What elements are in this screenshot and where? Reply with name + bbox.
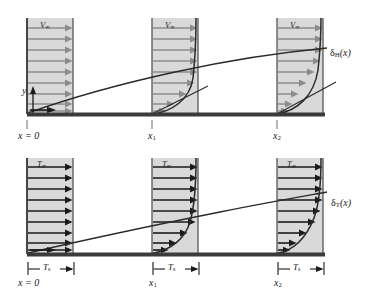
thermal-fill-3 bbox=[277, 158, 323, 254]
station-label-bottom-2: x2 bbox=[274, 278, 282, 289]
ts-dimension-bars bbox=[28, 262, 324, 275]
boundary-layer-figure bbox=[0, 0, 373, 298]
tinf-label-3: T∞ bbox=[287, 160, 296, 169]
flat-plate-bottom bbox=[27, 253, 325, 257]
station-ticks-top bbox=[27, 120, 277, 129]
station-label-top-1: x1 bbox=[148, 131, 156, 142]
velocity-fill-2 bbox=[152, 18, 198, 114]
thermal-station-1 bbox=[27, 158, 73, 254]
thermal-station-2 bbox=[152, 158, 198, 254]
tinf-label-1: T∞ bbox=[37, 160, 46, 169]
station-label-top-2: x2 bbox=[273, 131, 281, 142]
station-label-bottom-0: x = 0 bbox=[18, 278, 39, 288]
thermal-station-3 bbox=[277, 158, 323, 254]
vinf-label-2: V∞ bbox=[165, 21, 175, 30]
ts-label-3: Ts bbox=[293, 263, 300, 272]
ts-label-1: Ts bbox=[43, 263, 50, 272]
velocity-fill-1 bbox=[27, 18, 73, 114]
panel-hydrodynamic bbox=[27, 18, 336, 129]
thermal-fill-1 bbox=[27, 158, 73, 254]
vinf-label-3: V∞ bbox=[290, 21, 300, 30]
panel-thermal bbox=[27, 158, 327, 275]
flat-plate-top bbox=[27, 113, 325, 117]
delta-t-label: δT(x) bbox=[331, 198, 351, 209]
velocity-station-3 bbox=[277, 18, 336, 114]
vinf-label-1: V∞ bbox=[40, 21, 50, 30]
velocity-station-2 bbox=[152, 18, 208, 114]
thermal-fill-2 bbox=[152, 158, 198, 254]
velocity-fill-3 bbox=[277, 18, 323, 114]
ts-label-2: Ts bbox=[168, 263, 175, 272]
station-ticks-bottom bbox=[28, 262, 278, 272]
delta-h-label: δH(x) bbox=[330, 48, 351, 59]
y-axis-label: y bbox=[22, 86, 26, 96]
station-label-top-0: x = 0 bbox=[18, 131, 39, 141]
station-label-bottom-1: x1 bbox=[149, 278, 157, 289]
tinf-label-2: T∞ bbox=[162, 160, 171, 169]
